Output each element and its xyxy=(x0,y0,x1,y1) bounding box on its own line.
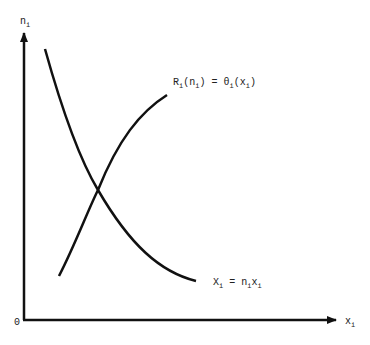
x-axis-label: xi xyxy=(345,316,355,329)
revenue-curve-label: Ri(ni) = θi(xi) xyxy=(173,77,256,90)
diagram-canvas: ni 0 xi Ri(ni) = θi(xi) Xi = nixi xyxy=(0,0,370,345)
origin-label: 0 xyxy=(14,317,20,328)
revenue-curve xyxy=(59,95,167,276)
output-curve-label: Xi = nixi xyxy=(213,277,262,290)
y-axis-label: ni xyxy=(20,16,30,29)
